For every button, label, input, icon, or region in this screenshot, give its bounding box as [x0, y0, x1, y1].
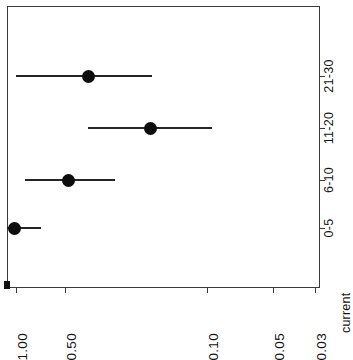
value-tick-label: 0.10: [206, 333, 221, 360]
value-tick: [65, 288, 66, 293]
plot-area: [7, 6, 320, 288]
data-point-marker: [144, 122, 157, 135]
category-tick-label: 21-30: [322, 59, 336, 92]
value-tick-label: 0.50: [64, 333, 79, 360]
value-tick-label: 0.03: [314, 333, 329, 360]
value-tick: [273, 288, 274, 293]
value-tick: [16, 288, 17, 293]
data-point-marker: [62, 174, 75, 187]
category-tick-label: 0-5: [322, 219, 336, 238]
category-tick-label: 6-10: [322, 167, 336, 193]
axis-origin-stub: [4, 281, 10, 289]
value-tick-label: 1.00: [15, 333, 30, 360]
value-tick: [207, 288, 208, 293]
data-point-marker: [82, 70, 95, 83]
value-axis-title: current: [339, 293, 353, 333]
category-tick-label: 11-20: [322, 112, 336, 145]
value-tick-label: 0.05: [272, 333, 287, 360]
data-point-marker: [8, 222, 21, 235]
value-tick: [315, 288, 316, 293]
